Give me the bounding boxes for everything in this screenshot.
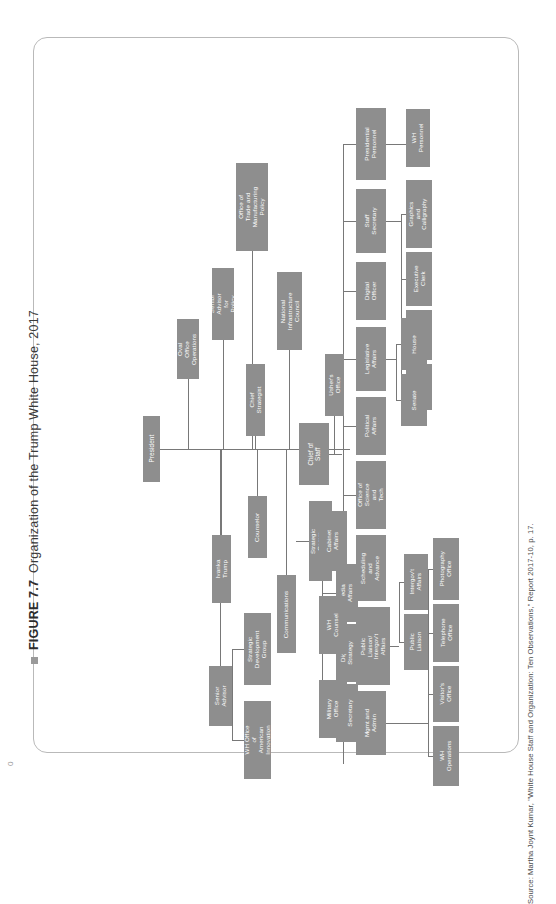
figure-caption: FIGURE 7.7 Organization of the Trump Whi… <box>20 24 48 664</box>
connector-line <box>343 426 356 427</box>
connector-line <box>257 449 258 496</box>
org-node-communications[interactable]: Communications <box>277 575 296 653</box>
org-node-trade_mfg[interactable]: Office of Trade and Manufacturing Policy <box>236 163 268 251</box>
org-node-label: Mgmt and Admin <box>364 708 378 738</box>
org-node-label: Telephone Office <box>439 619 452 648</box>
org-node-senate[interactable]: Senate <box>401 374 427 426</box>
org-node-label: Senior Advisor <box>214 685 228 708</box>
connector-line <box>343 221 356 222</box>
org-node-label: Office of Trade and Manufacturing Policy <box>238 187 266 228</box>
org-node-public_liaison_ig[interactable]: Public Liaison/ Intergov't Affairs <box>356 607 390 685</box>
figure-number: FIGURE 7.7 <box>27 580 41 650</box>
figure-page-frame: PresidentOval Office OperationsSenior Ad… <box>33 37 519 753</box>
org-node-label: Executive Clerk <box>412 266 425 293</box>
connector-line <box>343 495 356 496</box>
org-node-label: WH Office of American Innovation <box>244 725 271 755</box>
org-node-senior_advisor[interactable]: Senior Advisor <box>209 666 232 726</box>
org-node-label: Strategic Development Group <box>247 630 268 668</box>
org-node-staff_secretary[interactable]: Staff Secretary <box>356 189 386 253</box>
connector-line <box>221 449 222 535</box>
org-node-ushers_office[interactable]: Usher's Office <box>325 354 344 416</box>
connector-line <box>386 723 428 724</box>
page-folio: 0 <box>6 762 15 766</box>
org-node-legislative[interactable]: Legislative Affairs <box>356 327 386 391</box>
org-node-strat_dev_group[interactable]: Strategic Development Group <box>244 613 271 685</box>
org-node-label: Presidential Personnel <box>364 127 378 161</box>
org-node-label: Senate <box>411 387 418 413</box>
org-node-label: Cabinet Affairs <box>326 527 340 555</box>
org-node-visitors[interactable]: Visitor's Office <box>433 666 459 722</box>
connector-line <box>296 541 309 542</box>
connector-line <box>188 379 189 449</box>
org-node-intergov_affairs[interactable]: Intergov't Affairs <box>404 554 428 610</box>
org-node-label: WH Personnel <box>411 124 425 153</box>
org-node-label: Staff Secretary <box>364 206 378 236</box>
org-node-president[interactable]: President <box>143 416 160 482</box>
org-node-cabinet_affairs[interactable]: Cabinet Affairs <box>319 511 347 571</box>
org-node-graphics_callig[interactable]: Graphics and Calligraphy <box>406 180 432 248</box>
org-node-natl_infra[interactable]: National Infrastructure Council <box>277 272 302 350</box>
connector-line <box>390 646 399 647</box>
connector-line <box>223 340 224 449</box>
org-node-presidential_personnel[interactable]: Presidential Personnel <box>356 108 386 180</box>
org-node-scheduling[interactable]: Scheduling and Advance <box>356 535 386 601</box>
org-node-mgmt_admin[interactable]: Mgmt and Admin <box>356 691 386 755</box>
org-node-label: Legislative Affairs <box>364 344 378 374</box>
org-node-executive_clerk[interactable]: Executive Clerk <box>406 252 432 306</box>
org-node-label: Visitor's Office <box>439 681 452 707</box>
connector-line <box>399 582 400 642</box>
connector-line <box>255 436 256 449</box>
connector-line <box>343 291 356 292</box>
connector-line <box>322 593 336 594</box>
org-node-political_affairs[interactable]: Political Affairs <box>356 397 386 455</box>
org-node-label: Ivanka Trump <box>215 560 229 579</box>
org-node-label: Office of Science and Tech <box>357 480 385 510</box>
connector-line <box>232 740 244 741</box>
connector-line <box>396 344 397 400</box>
org-node-label: Graphics and Calligraphy <box>409 198 429 229</box>
org-node-oval_office[interactable]: Oval Office Operations <box>177 319 199 379</box>
org-node-counselor[interactable]: Counselor <box>248 496 267 558</box>
org-node-label: Photography Office <box>439 551 452 586</box>
figure-title: Organization of the Trump White House, 2… <box>27 310 41 573</box>
org-node-public_liaison[interactable]: Public Liaison <box>404 614 428 670</box>
org-node-label: Public Liaison/ Intergov't Affairs <box>360 629 387 663</box>
org-node-photography[interactable]: Photography Office <box>433 538 459 600</box>
org-node-wh_counsel[interactable]: WH Counsel <box>319 596 347 654</box>
org-node-label: Scheduling and Advance <box>361 552 382 584</box>
connector-line <box>343 144 356 145</box>
connector-line <box>289 350 290 449</box>
org-node-military_office[interactable]: Military Office <box>319 680 347 738</box>
bullet-icon <box>31 657 38 664</box>
org-node-senior_advisor_p[interactable]: Senior Advisor for Policy <box>212 268 234 340</box>
org-node-ivanka[interactable]: Ivanka Trump <box>212 535 231 603</box>
org-node-wh_innovation[interactable]: WH Office of American Innovation <box>244 701 271 779</box>
connector-line <box>334 416 335 454</box>
org-node-science_tech[interactable]: Office of Science and Tech <box>356 461 386 529</box>
org-node-wh_personnel[interactable]: WH Personnel <box>406 109 430 167</box>
org-node-label: Public Liaison <box>409 630 422 654</box>
org-node-label: National Infrastructure Council <box>279 292 300 330</box>
connector-line <box>386 144 406 145</box>
org-node-label: Digital Officer <box>364 276 378 306</box>
connector-line <box>232 649 244 650</box>
org-chart: PresidentOval Office OperationsSenior Ad… <box>81 86 536 776</box>
org-node-wh_operations[interactable]: WH Operations <box>433 726 459 786</box>
connector-line <box>286 449 287 575</box>
org-node-telephone[interactable]: Telephone Office <box>433 604 459 662</box>
connector-line <box>386 221 401 222</box>
org-node-chief_strategist[interactable]: Chief Strategist <box>246 364 265 436</box>
org-node-label: Intergov't Affairs <box>409 569 422 595</box>
org-node-label: Usher's Office <box>328 374 342 395</box>
org-node-label: Senior Advisor for Policy <box>212 293 234 315</box>
connector-line <box>428 569 429 756</box>
org-node-label: Chief Strategist <box>249 386 263 413</box>
org-node-label: Counselor <box>254 512 261 541</box>
org-node-label: House <box>411 331 418 357</box>
org-node-digital_officer[interactable]: Digital Officer <box>356 262 386 320</box>
org-node-label: Communications <box>283 590 290 637</box>
org-node-label: WH Operations <box>439 741 452 771</box>
org-node-label: Political Affairs <box>364 411 378 441</box>
org-node-house[interactable]: House <box>401 318 427 370</box>
org-node-chief_of_staff[interactable]: Chief of Staff <box>299 423 329 485</box>
